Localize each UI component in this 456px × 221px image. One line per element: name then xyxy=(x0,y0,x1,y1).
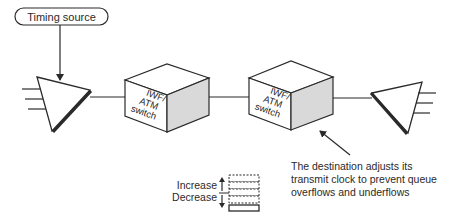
destination-multiplexer-icon xyxy=(371,82,436,134)
increase-arrow-icon xyxy=(219,177,225,191)
svg-text:overflows and underflows: overflows and underflows xyxy=(291,186,409,198)
annotation-text: The destination adjusts its transmit clo… xyxy=(291,160,437,198)
svg-text:transmit clock to prevent queu: transmit clock to prevent queue xyxy=(291,173,437,185)
timing-source-node: Timing source xyxy=(15,8,108,25)
svg-text:The destination adjusts its: The destination adjusts its xyxy=(291,160,412,172)
decrease-arrow-icon xyxy=(219,195,225,208)
switch-left-icon: IWF/ ATM switch xyxy=(125,64,209,132)
buffer-queue-icon xyxy=(229,175,259,211)
increase-label: Increase xyxy=(177,179,217,191)
network-timing-diagram: Timing source IWF/ ATM switch IWF/ ATM s… xyxy=(0,0,456,221)
source-multiplexer-icon xyxy=(22,77,91,132)
decrease-label: Decrease xyxy=(172,191,217,203)
annotation-arrow xyxy=(320,131,350,155)
switch-right-icon: IWF/ ATM switch xyxy=(249,61,333,130)
timing-source-label: Timing source xyxy=(27,11,96,23)
buffer-legend: Increase Decrease xyxy=(172,175,259,211)
